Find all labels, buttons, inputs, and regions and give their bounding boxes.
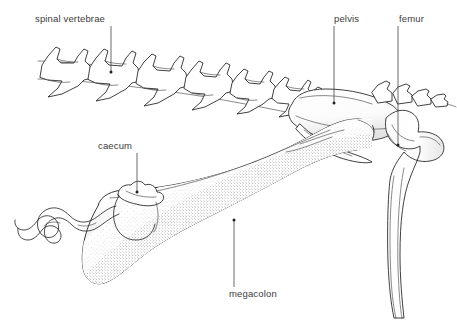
spinal-vertebrae-group <box>38 47 328 117</box>
megacolon-group <box>15 118 378 302</box>
femur-group <box>385 110 443 318</box>
label-megacolon: megacolon <box>229 288 277 299</box>
anatomical-figure: spinal vertebrae pelvis femur caecum meg… <box>0 0 457 323</box>
label-spinal-vertebrae: spinal vertebrae <box>35 13 105 24</box>
femur-bone <box>385 110 443 318</box>
label-femur: femur <box>399 13 424 24</box>
leader-megacolon <box>233 219 236 288</box>
label-caecum: caecum <box>98 140 132 151</box>
illustration-canvas <box>0 0 457 323</box>
label-pelvis: pelvis <box>334 13 359 24</box>
